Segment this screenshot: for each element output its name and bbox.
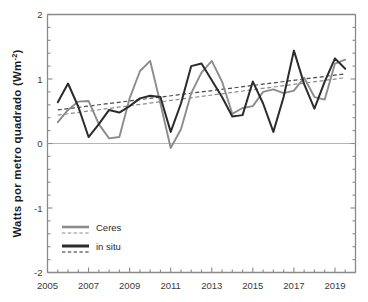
y-axis-label-main: Watts por metro quadrado (Wm: [11, 61, 23, 238]
y-axis-label-suffix: ): [11, 49, 23, 53]
x-tick-label: 2005: [37, 280, 58, 291]
y-axis-label: Watts por metro quadrado (Wm-2): [10, 49, 23, 237]
x-tick-label: 2011: [160, 280, 180, 291]
x-tick-label: 2013: [201, 280, 222, 291]
y-tick-label: 1: [37, 74, 42, 85]
y-tick-label: 0: [37, 138, 42, 149]
chart-figure: 210-1-220052007200920112013201520172019 …: [0, 0, 368, 302]
chart-background: [0, 0, 368, 302]
x-tick-label: 2009: [119, 280, 140, 291]
x-tick-label: 2007: [78, 280, 99, 291]
y-tick-label: -1: [34, 203, 42, 214]
y-axis-label-exponent: -2: [10, 53, 19, 60]
x-tick-label: 2017: [283, 280, 304, 291]
line-chart: 210-1-220052007200920112013201520172019 …: [0, 0, 368, 302]
y-tick-label: -2: [34, 267, 42, 278]
y-tick-label: 2: [37, 9, 42, 20]
legend-label: in situ: [96, 241, 121, 252]
x-tick-label: 2015: [242, 280, 263, 291]
y-axis-label-text: Watts por metro quadrado (Wm-2): [10, 49, 23, 237]
legend-label: Ceres: [96, 222, 122, 233]
x-tick-label: 2019: [324, 280, 345, 291]
